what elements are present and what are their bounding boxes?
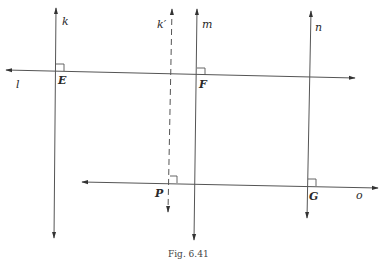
figure-6-41: k k′ m n l o E F P G Fig. 6.41 [0, 0, 383, 261]
label-line-k-prime: k′ [157, 18, 167, 31]
line-k [54, 8, 56, 238]
line-m [194, 9, 197, 240]
figure-caption: Fig. 6.41 [168, 249, 209, 259]
label-point-g: G [309, 190, 318, 203]
label-line-k: k [62, 15, 69, 28]
line-o [82, 182, 378, 188]
label-point-e: E [57, 74, 67, 87]
right-angle-mark-g [308, 179, 316, 186]
line-k-prime [168, 9, 172, 212]
label-line-m: m [202, 18, 212, 31]
label-line-n: n [315, 21, 322, 34]
label-line-o: o [356, 189, 363, 202]
right-angle-mark-p [170, 176, 177, 183]
right-angle-mark-e [56, 64, 64, 71]
label-point-f: F [198, 78, 208, 91]
label-line-l: l [16, 78, 20, 91]
label-point-p: P [154, 187, 164, 200]
